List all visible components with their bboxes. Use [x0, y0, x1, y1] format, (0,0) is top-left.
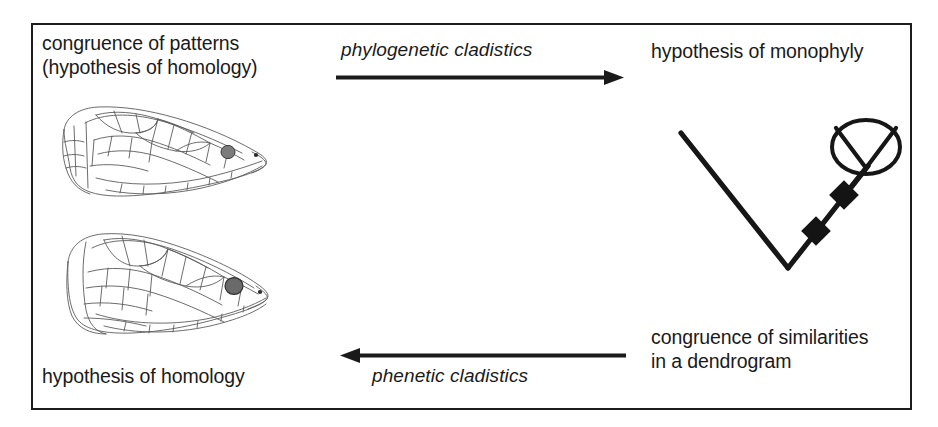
monophyly-fork-right-arm — [866, 128, 896, 168]
snake-nostril-bottom — [258, 290, 262, 294]
cladogram-diagram — [660, 110, 910, 290]
label-phenetic-cladistics: phenetic cladistics — [372, 364, 528, 388]
snake-head-top-illustration — [52, 96, 287, 206]
cladogram-left-branch — [681, 133, 788, 268]
label-phylogenetic-cladistics: phylogenetic cladistics — [341, 38, 532, 62]
snake-eye-bottom — [225, 278, 243, 295]
figure-root: congruence of patterns (hypothesis of ho… — [0, 0, 938, 427]
snake-nostril-top — [254, 153, 258, 157]
label-congruence-of-patterns: congruence of patterns (hypothesis of ho… — [42, 31, 257, 79]
label-hypothesis-of-monophyly: hypothesis of monophyly — [651, 39, 863, 63]
snake-head-bottom-illustration — [52, 222, 287, 350]
snake-eye-top — [221, 145, 235, 158]
label-congruence-of-similarities: congruence of similarities in a dendrogr… — [651, 325, 868, 373]
monophyly-fork-left-arm — [836, 128, 866, 168]
label-hypothesis-of-homology: hypothesis of homology — [42, 364, 245, 388]
